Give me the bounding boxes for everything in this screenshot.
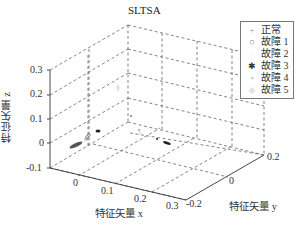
legend-label: 故障 5: [261, 84, 289, 96]
legend-item-normal: + 正常: [241, 24, 293, 36]
data-points: [69, 85, 171, 150]
x-tick: 0.2: [134, 193, 147, 204]
legend-item-fault3: ✱ 故障 3: [241, 60, 293, 72]
x-tick: 0: [73, 177, 78, 188]
series-fault4: [138, 129, 141, 132]
series-normal: [130, 115, 132, 117]
legend-label: 故障 3: [261, 60, 289, 72]
legend-item-fault5: ◆ 故障 5: [241, 84, 293, 96]
z-tick: 0: [39, 137, 44, 148]
legend-label: 故障 4: [261, 72, 289, 84]
y-tick: 0.2: [267, 151, 280, 162]
diamond-marker-icon: ◆: [247, 84, 257, 96]
asterisk-marker-icon: ✱: [247, 60, 257, 72]
z-tick: 0.2: [30, 88, 43, 99]
y-tick: -0.2: [186, 198, 202, 209]
z-tick: 0.1: [30, 113, 43, 124]
series-fault2: [117, 85, 120, 91]
z-axis-label: 特征矢量 z: [0, 92, 14, 143]
legend: + 正常 ○ 故障 1 · 故障 2 ✱ 故障 3 ▪ 故障 4 ◆ 故障 5: [240, 21, 294, 99]
chart-title: SLTSA: [128, 4, 161, 16]
x-axis-label: 特征矢量 x: [95, 205, 143, 220]
series-fault5: [139, 132, 141, 134]
legend-label: 故障 2: [261, 48, 289, 60]
z-tick: -0.1: [26, 162, 42, 173]
scatter3d-chart: SLTSA 0.3 0.2 0.1 0 -0.1 特征矢量 z 0 0.1 0.…: [0, 0, 296, 227]
y-axis-label: 特征矢量 y: [229, 198, 277, 213]
plus-marker-icon: +: [247, 24, 257, 36]
dot-marker-icon: ·: [247, 48, 257, 60]
legend-label: 正常: [261, 24, 281, 36]
legend-item-fault4: ▪ 故障 4: [241, 72, 293, 84]
cluster-left: [69, 140, 83, 150]
x-tick: 0.3: [166, 200, 179, 211]
circle-marker-icon: ○: [247, 36, 257, 48]
y-tick: 0: [229, 175, 234, 186]
z-tick: 0.3: [30, 64, 43, 75]
legend-item-fault1: ○ 故障 1: [241, 36, 293, 48]
x-tick: 0.1: [101, 185, 114, 196]
legend-item-fault2: · 故障 2: [241, 48, 293, 60]
legend-label: 故障 1: [261, 36, 289, 48]
square-marker-icon: ▪: [247, 72, 257, 84]
